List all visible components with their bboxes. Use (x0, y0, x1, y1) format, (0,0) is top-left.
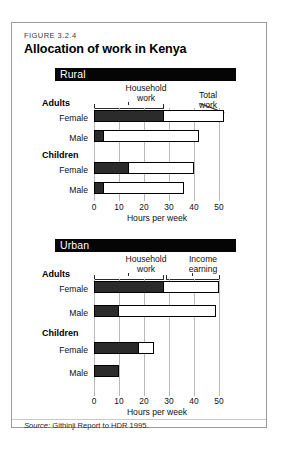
figure-number: FIGURE 3.2.4 (24, 31, 186, 41)
figure-card: FIGURE 3.2.4 Allocation of work in Kenya… (11, 22, 267, 428)
source-prefix: Source: (24, 421, 50, 430)
annotation-line-2: work (137, 93, 155, 103)
group-label-urban-adults: Adults (42, 269, 70, 279)
source-note: Source: Githinji Report to HDR 1995. (24, 421, 149, 431)
bar-segment-household (94, 130, 104, 142)
bar-segment-household (94, 305, 119, 317)
axis-tick-10: 10 (109, 396, 129, 406)
row-label-rural-adults-male: Male (42, 133, 88, 143)
bracket-urban-income-earning (166, 275, 220, 280)
bar-segment-total (94, 182, 184, 194)
source-divider (12, 419, 266, 420)
gridline-40 (194, 279, 195, 396)
annotation-rural-household-work: Household work (115, 84, 177, 103)
gridline-0 (94, 279, 95, 396)
axis-tick-20: 20 (134, 202, 154, 212)
bar-rural-children-female (94, 162, 194, 174)
bar-segment-household (94, 182, 104, 194)
gridline-50 (219, 279, 220, 396)
bar-rural-adults-female (94, 110, 224, 122)
bar-segment-total (94, 130, 199, 142)
axis-tick-40: 40 (184, 396, 204, 406)
gridline-10 (119, 279, 120, 396)
bar-urban-children-female (94, 342, 154, 354)
bar-urban-adults-female (94, 281, 219, 293)
gridline-30 (169, 279, 170, 396)
axis-tick-20: 20 (134, 396, 154, 406)
axis-tick-0: 0 (84, 396, 104, 406)
page-title: Allocation of work in Kenya (24, 42, 186, 57)
annotation-line-2: work (137, 264, 155, 274)
bracket-urban-household-work (94, 275, 164, 280)
axis-tick-30: 30 (159, 396, 179, 406)
figure-header: FIGURE 3.2.4 Allocation of work in Kenya (24, 31, 186, 57)
source-text: Githinji Report to HDR 1995. (52, 421, 148, 430)
axis-title-urban: Hours per week (97, 407, 217, 417)
bar-urban-children-male (94, 365, 119, 377)
bracket-rural-household-work (94, 104, 164, 109)
axis-tick-50: 50 (209, 396, 229, 406)
bar-rural-children-male (94, 182, 184, 194)
bar-rural-adults-male (94, 130, 199, 142)
row-label-urban-children-male: Male (42, 368, 88, 378)
bar-segment-household (94, 281, 164, 293)
bar-segment-household (94, 110, 164, 122)
annotation-line-1: Household (125, 254, 166, 264)
row-label-urban-adults-female: Female (42, 284, 88, 294)
group-label-urban-children: Children (42, 328, 79, 338)
annotation-urban-income-earning: Income earning (172, 255, 234, 274)
axis-tick-10: 10 (109, 202, 129, 212)
group-label-rural-adults: Adults (42, 98, 70, 108)
axis-tick-30: 30 (159, 202, 179, 212)
row-label-rural-adults-female: Female (42, 113, 88, 123)
axis-tick-0: 0 (84, 202, 104, 212)
banner-urban: Urban (55, 239, 236, 252)
axis-tick-40: 40 (184, 202, 204, 212)
banner-rural: Rural (55, 68, 236, 81)
gridline-20 (144, 279, 145, 396)
axis-tick-50: 50 (209, 202, 229, 212)
bar-segment-household (94, 365, 119, 377)
bar-segment-household (94, 342, 139, 354)
annotation-line-1: Total (199, 90, 217, 100)
annotation-line-1: Household (125, 83, 166, 93)
annotation-urban-household-work: Household work (115, 255, 177, 274)
row-label-urban-adults-male: Male (42, 308, 88, 318)
axis-title-rural: Hours per week (97, 213, 217, 223)
bar-segment-household (94, 162, 129, 174)
row-label-rural-children-female: Female (42, 165, 88, 175)
group-label-rural-children: Children (42, 150, 79, 160)
row-label-urban-children-female: Female (42, 345, 88, 355)
bar-urban-adults-male (94, 305, 216, 317)
row-label-rural-children-male: Male (42, 185, 88, 195)
annotation-line-1: Income (189, 254, 217, 264)
